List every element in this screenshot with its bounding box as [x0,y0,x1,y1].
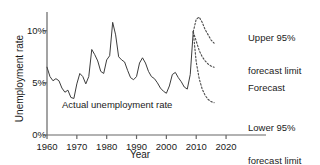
forecast-annotation-line1: Forecast [248,82,285,93]
lower-limit-annotation-line2: forecast limit [248,155,301,165]
lower-limit-annotation-line1: Lower 95% [248,122,301,133]
lower-limit-annotation: Lower 95% forecast limit [248,100,301,165]
upper-limit-annotation-line1: Upper 95% [248,32,301,43]
x-axis-title: Year [40,149,240,160]
unemployment-forecast-chart: 0%5%10% 1960197019801990200020102020 Une… [0,0,320,165]
actual-series-annotation: Actual unemployment rate [62,99,172,110]
y-axis-title: Unemployment rate [14,19,25,139]
